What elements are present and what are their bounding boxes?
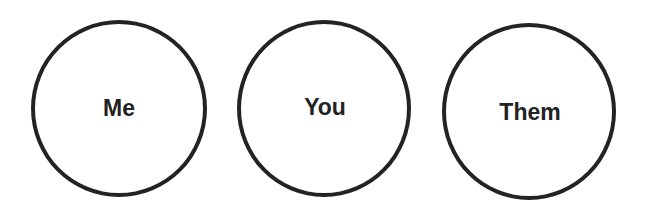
label-me: Me xyxy=(103,97,135,120)
circle-you: You xyxy=(237,20,411,197)
diagram-canvas: Me You Them xyxy=(0,0,649,215)
circle-me: Me xyxy=(31,20,207,197)
circle-them: Them xyxy=(442,23,616,200)
label-you: You xyxy=(304,96,346,119)
label-them: Them xyxy=(499,101,560,124)
